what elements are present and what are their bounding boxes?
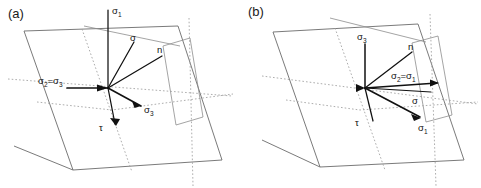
fault-plane-edge-lower-left: [14, 146, 73, 170]
vector-sigma-stress: [108, 42, 134, 88]
vector-sigma-stress: [365, 88, 431, 92]
fault-plane-edge-lower-left: [262, 140, 320, 167]
label-sigma-1: σ1: [112, 5, 122, 18]
panel-b: σ3 n σ2=σ1 σ σ1 τ (b): [240, 0, 481, 188]
label-tau: τ: [355, 117, 359, 128]
dotted-inclined-trace: [335, 28, 385, 170]
label-sigma-stress: σ: [412, 95, 418, 106]
label-sigma-2-equals-sigma-1: σ2=σ1: [391, 70, 416, 83]
label-sigma-3: σ3: [144, 104, 154, 117]
stress-tensor-figure: σ1 σ n σ2=σ3 σ3 τ (a): [0, 0, 481, 188]
dotted-plane-trace-2: [286, 100, 478, 110]
label-sigma-stress: σ: [130, 32, 136, 43]
label-sigma-3: σ3: [357, 31, 367, 44]
panel-b-drawing: σ3 n σ2=σ1 σ σ1 τ: [240, 0, 481, 188]
arrowhead-sigma-2-3: [97, 85, 108, 92]
top-slant-line: [330, 18, 426, 42]
arrowhead-sigma-2-1: [430, 80, 439, 87]
vector-sigma-2-equals-sigma-1: [365, 83, 437, 88]
panel-a-drawing: σ1 σ n σ2=σ3 σ3 τ: [0, 0, 240, 188]
label-sigma-1: σ1: [418, 122, 428, 135]
panel-b-label: (b): [248, 4, 264, 19]
dotted-inclined-trace: [82, 29, 132, 172]
label-normal-n: n: [408, 41, 413, 52]
panel-a: σ1 σ n σ2=σ3 σ3 τ (a): [0, 0, 240, 188]
panel-a-label: (a): [8, 6, 24, 21]
arrowhead-tau: [110, 118, 120, 126]
label-sigma-2-equals-sigma-3: σ2=σ3: [38, 75, 63, 88]
vector-normal: [108, 56, 162, 88]
vertical-plane-right: [163, 38, 203, 125]
dotted-vertical-trace: [430, 14, 436, 186]
arrowhead-origin-left: [356, 84, 365, 92]
label-normal-n: n: [157, 44, 162, 55]
label-tau: τ: [99, 122, 103, 133]
vertical-plane-right: [412, 36, 452, 122]
fault-plane-main: [273, 24, 464, 167]
